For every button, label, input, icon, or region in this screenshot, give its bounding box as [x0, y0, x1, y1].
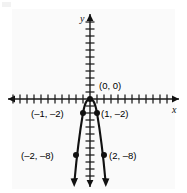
curve-left-arrow — [71, 178, 78, 187]
point-2-neg8 — [101, 152, 107, 158]
parabola-figure: y x (0, 0) (–1, –2) (1, –2) (–2, –8) (2,… — [0, 0, 187, 193]
coordinate-plane-svg: y x — [0, 0, 187, 193]
y-axis-up-arrow — [87, 14, 94, 21]
x-axis-right-arrow — [172, 96, 179, 103]
y-axis-label: y — [79, 13, 85, 24]
curve-right-arrow — [102, 178, 109, 187]
label-2-neg8: (2, –8) — [109, 150, 136, 161]
x-axis-left-arrow — [8, 96, 15, 103]
point-neg1-neg2 — [80, 110, 86, 116]
label-neg2-neg8: (–2, –8) — [21, 150, 54, 161]
x-axis-label: x — [171, 104, 177, 115]
point-neg2-neg8 — [73, 152, 79, 158]
point-0-0 — [87, 96, 93, 102]
label-origin: (0, 0) — [99, 80, 121, 91]
label-1-neg2: (1, –2) — [101, 108, 128, 119]
label-neg1-neg2: (–1, –2) — [31, 108, 64, 119]
point-1-neg2 — [94, 110, 100, 116]
y-axis-down-arrow — [87, 180, 94, 187]
